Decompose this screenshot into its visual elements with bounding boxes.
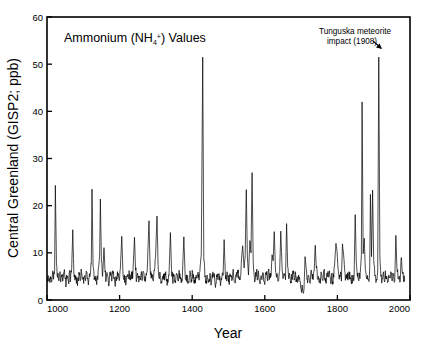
x-axis-tick-labels: 100012001400160018002000	[47, 303, 410, 314]
chart-canvas: 100012001400160018002000 0102030405060 A…	[0, 0, 423, 344]
y-axis-title: Central Greenland (GISP2; ppb)	[5, 58, 21, 258]
y-tick-label: 60	[32, 12, 43, 23]
annotation-line-2: impact (1908)	[327, 37, 377, 46]
tunguska-annotation: Tunguska meteorite impact (1908)	[319, 27, 392, 49]
x-tick-label: 1800	[327, 303, 348, 314]
x-tick-label: 1600	[254, 303, 275, 314]
x-axis-title: Year	[214, 325, 243, 341]
y-tick-label: 30	[32, 153, 43, 164]
y-tick-label: 40	[32, 106, 43, 117]
y-tick-label: 10	[32, 247, 43, 258]
x-tick-label: 1400	[182, 303, 203, 314]
x-tick-label: 1200	[109, 303, 130, 314]
annotation-line-1: Tunguska meteorite	[319, 27, 392, 36]
x-tick-label: 2000	[389, 303, 410, 314]
ammonium-values-chart-figure: 100012001400160018002000 0102030405060 A…	[0, 0, 423, 344]
ammonium-series-line	[47, 57, 405, 293]
y-tick-label: 50	[32, 59, 43, 70]
plot-title: Ammonium (NH4+) Values	[64, 31, 206, 46]
y-tick-label: 20	[32, 200, 43, 211]
y-tick-label: 0	[38, 295, 43, 306]
y-axis-tick-labels: 0102030405060	[32, 12, 43, 306]
x-tick-label: 1000	[47, 303, 68, 314]
